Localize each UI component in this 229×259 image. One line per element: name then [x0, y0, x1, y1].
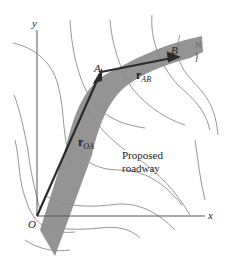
y-axis-label: y [32, 18, 37, 29]
vector-r-oa-label: rOA [78, 136, 94, 148]
annotation-line-2: roadway [122, 163, 160, 174]
point-b-label: B [171, 45, 178, 56]
vector-r-ab-subscript: AB [141, 75, 151, 84]
vector-r-oa-subscript: OA [83, 142, 94, 151]
diagram-canvas: y x O A B N rAB rOA Proposed roadway [0, 0, 229, 259]
north-arrow-icon [196, 53, 197, 62]
origin-label: O [28, 219, 36, 230]
annotation-line-1: Proposed [122, 150, 163, 161]
vector-r-ab-label: rAB [136, 69, 151, 81]
x-axis-label: x [208, 210, 213, 221]
compass-north-label: N [195, 41, 202, 50]
point-a-label: A [94, 63, 101, 74]
